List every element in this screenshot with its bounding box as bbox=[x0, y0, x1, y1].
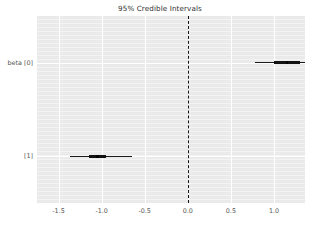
panel-texture-line bbox=[37, 191, 305, 192]
y-tick-label: [1] bbox=[24, 152, 33, 160]
x-tick-label: 0.5 bbox=[226, 207, 236, 215]
panel-texture-line bbox=[37, 151, 305, 152]
panel-texture-line bbox=[37, 91, 305, 92]
point-estimate-marker bbox=[96, 155, 99, 158]
panel-texture-line bbox=[37, 23, 305, 24]
gridline-vertical bbox=[102, 16, 103, 203]
gridline-vertical bbox=[231, 16, 232, 203]
y-tick-label: beta [0] bbox=[8, 59, 34, 67]
x-tick-label: -1.5 bbox=[52, 207, 64, 215]
panel-texture-line bbox=[37, 147, 305, 148]
panel-texture-line bbox=[37, 95, 305, 96]
panel-texture-line bbox=[37, 19, 305, 20]
panel-texture-line bbox=[37, 135, 305, 136]
x-tick-label: -1.0 bbox=[95, 207, 107, 215]
panel-texture-line bbox=[37, 111, 305, 112]
panel-texture-line bbox=[37, 27, 305, 28]
panel-texture-line bbox=[37, 59, 305, 60]
plot-area bbox=[37, 16, 305, 203]
panel-texture-line bbox=[37, 159, 305, 160]
panel-texture-line bbox=[37, 79, 305, 80]
x-tick-label: -0.5 bbox=[138, 207, 150, 215]
gridline-vertical bbox=[59, 16, 60, 203]
panel-texture-line bbox=[37, 143, 305, 144]
gridline-vertical bbox=[145, 16, 146, 203]
panel-texture-line bbox=[37, 115, 305, 116]
x-tick-label: 1.0 bbox=[269, 207, 279, 215]
page-title: 95% Credible Intervals bbox=[0, 4, 320, 13]
panel-texture-line bbox=[37, 123, 305, 124]
panel-texture-line bbox=[37, 167, 305, 168]
x-axis-labels: -1.5-1.0-0.50.00.51.0 bbox=[0, 207, 320, 219]
panel-texture-line bbox=[37, 171, 305, 172]
panel-texture-line bbox=[37, 187, 305, 188]
panel-texture-line bbox=[37, 99, 305, 100]
panel-texture-line bbox=[37, 163, 305, 164]
caption-strip bbox=[0, 229, 320, 237]
panel-texture-line bbox=[37, 183, 305, 184]
gridline-vertical bbox=[274, 16, 275, 203]
panel-texture-line bbox=[37, 103, 305, 104]
credible-intervals-figure: 95% Credible Intervals beta [0][1] -1.5-… bbox=[0, 0, 320, 237]
panel-texture-line bbox=[37, 43, 305, 44]
panel-texture-line bbox=[37, 51, 305, 52]
panel-texture-line bbox=[37, 107, 305, 108]
panel-texture-line bbox=[37, 67, 305, 68]
panel-texture-line bbox=[37, 71, 305, 72]
panel-texture-line bbox=[37, 175, 305, 176]
panel-texture-line bbox=[37, 179, 305, 180]
panel-texture-line bbox=[37, 75, 305, 76]
panel-texture-line bbox=[37, 119, 305, 120]
panel-texture-line bbox=[37, 127, 305, 128]
y-axis-labels: beta [0][1] bbox=[0, 16, 33, 203]
panel-texture-line bbox=[37, 55, 305, 56]
panel-texture-line bbox=[37, 47, 305, 48]
panel-texture-line bbox=[37, 35, 305, 36]
panel-texture-line bbox=[37, 87, 305, 88]
zero-reference-line bbox=[188, 16, 189, 203]
panel-texture-line bbox=[37, 195, 305, 196]
x-tick-label: 0.0 bbox=[183, 207, 193, 215]
panel-texture-line bbox=[37, 39, 305, 40]
panel-texture-line bbox=[37, 139, 305, 140]
panel-texture-line bbox=[37, 83, 305, 84]
panel-texture-line bbox=[37, 199, 305, 200]
panel-texture-line bbox=[37, 31, 305, 32]
panel-texture-line bbox=[37, 131, 305, 132]
